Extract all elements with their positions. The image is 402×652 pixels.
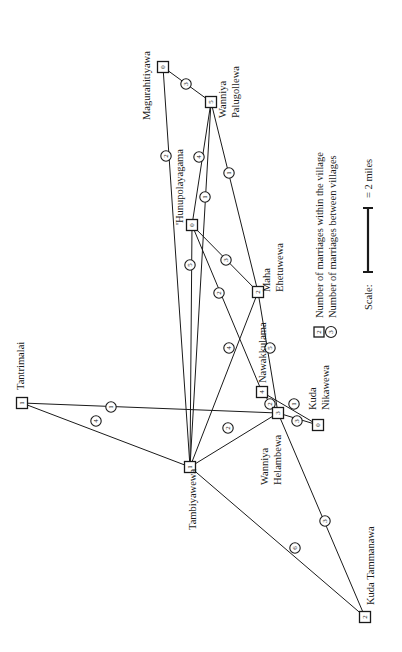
village-label: Ehetuwewa xyxy=(274,243,285,292)
village-label: Nawakkulama xyxy=(257,322,268,383)
link-count: 6 xyxy=(291,546,299,550)
link-count: 4 xyxy=(195,155,203,159)
link-count: 2 xyxy=(162,154,170,158)
village-node-wanniya-helambewa: 3WanniyaHelambewa xyxy=(259,408,284,486)
village-node-kuda-tammanawa: 2Kuda Tammanawa xyxy=(360,526,377,623)
link-count: 3 xyxy=(222,258,230,262)
link-count-badge: 3 xyxy=(292,416,302,426)
village-internal-count: 1 xyxy=(186,465,194,469)
link-count: 2 xyxy=(266,402,274,406)
link-count-badge: 4 xyxy=(91,416,101,426)
village-internal-count: 5 xyxy=(207,100,215,104)
link-line xyxy=(211,102,258,292)
link-count-badge: 1 xyxy=(106,402,116,412)
village-internal-count: 0 xyxy=(188,223,196,227)
link-count-badge: 1 xyxy=(224,168,234,178)
link-counts-layer: 324113524514221363 xyxy=(91,79,330,553)
links-layer xyxy=(22,67,365,617)
village-label: Magurahitiyawa xyxy=(141,51,152,120)
village-label: Kuda xyxy=(307,387,318,410)
link-count-badge: 6 xyxy=(290,543,300,553)
legend-between-label: Number of marriages between villages xyxy=(327,155,338,318)
link-count: 3 xyxy=(321,519,329,523)
link-count: 2 xyxy=(224,426,232,430)
link-line xyxy=(190,292,258,467)
village-label: Helambewa xyxy=(272,435,283,485)
scale-label: Scale: xyxy=(363,284,374,310)
link-count: 4 xyxy=(92,419,100,423)
legend-box-number: 2 xyxy=(315,330,323,334)
link-count: 4 xyxy=(225,346,233,350)
link-line xyxy=(190,467,365,617)
link-count-badge: 2 xyxy=(223,423,233,433)
link-count-badge: 5 xyxy=(185,260,195,270)
scale-bar-icon xyxy=(363,208,373,272)
village-label: Nikawewa xyxy=(320,365,331,410)
link-line xyxy=(278,413,365,617)
village-label: Palugollewa xyxy=(230,66,241,118)
village-node-tantrimalai: 1Tantrimalai xyxy=(15,342,28,409)
village-internal-count: 1 xyxy=(18,401,26,405)
link-count-badge: 1 xyxy=(289,399,299,409)
link-count: 5 xyxy=(186,263,194,267)
village-node-maha-ehetuwewa: 2MahaEhetuwewa xyxy=(253,243,286,298)
link-count: 3 xyxy=(293,419,301,423)
village-label: Wanniya xyxy=(217,81,228,118)
link-count-badge: 3 xyxy=(320,516,330,526)
marriage-network-diagram: 3241135245142213630Magurahitiyawa5Wanniy… xyxy=(0,0,402,652)
village-label: Tambiyawewa xyxy=(187,469,198,530)
scale-value: = 2 miles xyxy=(363,159,374,198)
link-line xyxy=(192,102,211,225)
village-node-tambiyawewa: 1Tambiyawewa xyxy=(185,462,199,531)
village-internal-count: 2 xyxy=(361,615,369,619)
village-label: Tantrimalai xyxy=(15,342,26,390)
link-count-badge: 4 xyxy=(224,343,234,353)
village-internal-count: 0 xyxy=(159,65,167,69)
village-label: Wanniya xyxy=(259,448,270,485)
legend: 2Number of marriages within the village3… xyxy=(314,152,374,338)
link-count: 1 xyxy=(225,171,233,175)
village-label: Kuda Tammanawa xyxy=(365,526,376,605)
legend-internal-label: Number of marriages within the village xyxy=(314,152,325,318)
link-count: 1 xyxy=(201,195,209,199)
village-node-nawakkulama: 4Nawakkulama xyxy=(257,322,269,397)
village-internal-count: 4 xyxy=(258,390,266,394)
link-count-badge: 1 xyxy=(200,192,210,202)
village-label: Maha xyxy=(261,268,272,292)
village-internal-count: 3 xyxy=(274,411,282,415)
link-count-badge: 4 xyxy=(194,152,204,162)
link-line xyxy=(22,403,278,413)
link-line xyxy=(22,403,190,467)
link-count: 3 xyxy=(182,82,190,86)
link-count-badge: 2 xyxy=(214,288,224,298)
link-count-badge: 2 xyxy=(161,151,171,161)
link-count-badge: 3 xyxy=(221,255,231,265)
link-count: 1 xyxy=(290,402,298,406)
link-count-badge: 3 xyxy=(181,79,191,89)
village-internal-count: 0 xyxy=(314,423,322,427)
village-label: 'Hunupolayagama xyxy=(174,149,185,225)
link-count: 2 xyxy=(215,291,223,295)
village-node-hunupolayagama: 0'Hunupolayagama xyxy=(174,149,198,231)
legend-circle-number: 3 xyxy=(327,330,335,334)
link-count: 1 xyxy=(107,405,115,409)
